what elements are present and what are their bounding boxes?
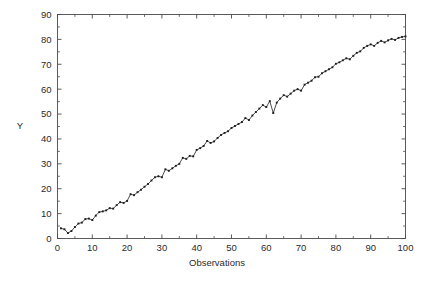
data-point-marker bbox=[387, 39, 389, 41]
data-point-marker bbox=[84, 218, 86, 220]
data-point-marker bbox=[91, 219, 93, 221]
data-point-marker bbox=[405, 35, 407, 37]
data-point-marker bbox=[328, 68, 330, 70]
data-point-marker bbox=[380, 40, 382, 42]
data-point-marker bbox=[102, 210, 104, 212]
x-tick-label: 70 bbox=[296, 242, 307, 253]
data-point-marker bbox=[199, 147, 201, 149]
data-point-marker bbox=[359, 50, 361, 52]
data-point-marker bbox=[147, 183, 149, 185]
y-tick-label: 40 bbox=[41, 133, 52, 144]
data-point-marker bbox=[227, 130, 229, 132]
data-point-marker bbox=[157, 175, 159, 177]
data-point-marker bbox=[137, 191, 139, 193]
x-tick-label: 40 bbox=[191, 242, 202, 253]
data-point-marker bbox=[164, 168, 166, 170]
data-point-marker bbox=[325, 70, 327, 72]
data-point-marker bbox=[112, 208, 114, 210]
data-point-marker bbox=[109, 207, 111, 209]
data-point-marker bbox=[81, 222, 83, 224]
data-point-marker bbox=[269, 100, 271, 102]
data-point-marker bbox=[182, 157, 184, 159]
y-tick-label: 50 bbox=[41, 108, 52, 119]
data-point-marker bbox=[283, 94, 285, 96]
x-axis-title: Observations bbox=[189, 257, 245, 268]
data-point-marker bbox=[70, 230, 72, 232]
data-point-marker bbox=[175, 165, 177, 167]
x-tick-label: 50 bbox=[226, 242, 237, 253]
data-point-marker bbox=[123, 202, 125, 204]
data-point-marker bbox=[130, 193, 132, 195]
data-point-marker bbox=[178, 163, 180, 165]
data-point-marker bbox=[210, 142, 212, 144]
data-point-marker bbox=[77, 223, 79, 225]
data-point-marker bbox=[286, 96, 288, 98]
data-point-marker bbox=[206, 140, 208, 142]
line-chart: 0102030405060708090100 01020304050607080… bbox=[0, 0, 433, 281]
data-point-marker bbox=[244, 117, 246, 119]
y-tick-label: 20 bbox=[41, 183, 52, 194]
data-point-marker bbox=[331, 66, 333, 68]
data-point-marker bbox=[171, 167, 173, 169]
data-point-marker bbox=[60, 227, 62, 229]
data-point-marker bbox=[234, 125, 236, 127]
data-point-marker bbox=[373, 45, 375, 47]
data-point-marker bbox=[144, 186, 146, 188]
data-point-marker bbox=[293, 90, 295, 92]
x-tick-label: 10 bbox=[87, 242, 98, 253]
data-point-marker bbox=[185, 158, 187, 160]
data-point-marker bbox=[217, 137, 219, 139]
data-point-marker bbox=[116, 204, 118, 206]
data-point-marker bbox=[398, 37, 400, 39]
data-point-marker bbox=[394, 39, 396, 41]
data-point-marker bbox=[370, 43, 372, 45]
x-tick-label: 90 bbox=[365, 242, 376, 253]
data-point-marker bbox=[95, 215, 97, 217]
data-point-marker bbox=[248, 119, 250, 121]
data-point-marker bbox=[321, 72, 323, 74]
data-point-marker bbox=[272, 112, 274, 114]
data-point-marker bbox=[213, 140, 215, 142]
data-point-marker bbox=[74, 226, 76, 228]
x-tick-label: 100 bbox=[398, 242, 414, 253]
data-point-marker bbox=[258, 108, 260, 110]
data-point-marker bbox=[366, 45, 368, 47]
data-point-marker bbox=[279, 98, 281, 100]
y-tick-label: 10 bbox=[41, 208, 52, 219]
data-point-marker bbox=[133, 194, 135, 196]
data-point-marker bbox=[276, 102, 278, 104]
data-point-marker bbox=[318, 76, 320, 78]
data-point-marker bbox=[335, 63, 337, 65]
data-point-marker bbox=[88, 218, 90, 220]
data-point-marker bbox=[297, 88, 299, 90]
data-point-marker bbox=[401, 36, 403, 38]
data-point-marker bbox=[203, 145, 205, 147]
data-point-marker bbox=[342, 59, 344, 61]
data-point-marker bbox=[338, 61, 340, 63]
y-tick-label: 30 bbox=[41, 158, 52, 169]
data-point-marker bbox=[384, 41, 386, 43]
data-point-marker bbox=[349, 58, 351, 60]
data-point-marker bbox=[391, 38, 393, 40]
data-point-marker bbox=[255, 111, 257, 113]
data-point-marker bbox=[98, 211, 100, 213]
data-point-marker bbox=[140, 189, 142, 191]
data-point-marker bbox=[345, 57, 347, 59]
data-point-marker bbox=[126, 200, 128, 202]
data-point-marker bbox=[189, 155, 191, 157]
data-point-marker bbox=[352, 55, 354, 57]
data-point-marker bbox=[231, 127, 233, 129]
x-tick-label: 80 bbox=[331, 242, 342, 253]
y-tick-label: 80 bbox=[41, 34, 52, 45]
data-point-marker bbox=[290, 93, 292, 95]
data-point-marker bbox=[168, 170, 170, 172]
y-tick-label: 70 bbox=[41, 59, 52, 70]
y-tick-label: 60 bbox=[41, 84, 52, 95]
data-point-marker bbox=[262, 104, 264, 106]
data-point-marker bbox=[377, 42, 379, 44]
data-point-marker bbox=[241, 121, 243, 123]
data-point-marker bbox=[311, 80, 313, 82]
data-point-marker bbox=[363, 47, 365, 49]
data-point-marker bbox=[224, 132, 226, 134]
x-tick-label: 30 bbox=[157, 242, 168, 253]
